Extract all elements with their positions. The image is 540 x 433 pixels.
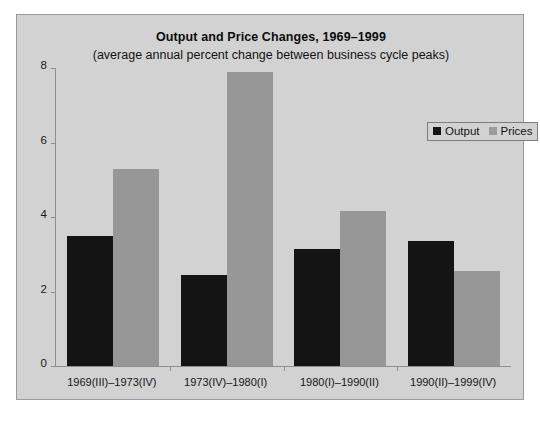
plot-area: 02468 — [55, 68, 511, 367]
y-axis-tick: 4 — [26, 217, 56, 218]
bar-group — [294, 68, 386, 366]
x-axis-category-label: 1973(IV)–1980(I) — [169, 375, 283, 389]
legend-swatch-prices-icon — [489, 127, 497, 135]
bar-output-4 — [408, 241, 454, 366]
bar-output-1 — [67, 236, 113, 366]
legend-item-output: Output — [433, 125, 480, 137]
bar-prices-1 — [113, 169, 159, 366]
bar-group — [181, 68, 273, 366]
legend-label-prices: Prices — [501, 125, 533, 137]
title-block: Output and Price Changes, 1969–1999 (ave… — [17, 29, 525, 64]
bar-output-2 — [181, 275, 227, 366]
bar-output-3 — [294, 249, 340, 366]
chart-subtitle: (average annual percent change between b… — [17, 47, 525, 64]
chart-title: Output and Price Changes, 1969–1999 — [17, 29, 525, 45]
y-axis-tick: 0 — [26, 366, 56, 367]
y-axis-tick: 8 — [26, 68, 56, 69]
chart-figure: Output and Price Changes, 1969–1999 (ave… — [0, 0, 540, 433]
x-axis-category-label: 1980(I)–1990(II) — [283, 375, 397, 389]
bar-prices-3 — [340, 211, 386, 366]
legend-item-prices: Prices — [489, 125, 533, 137]
bar-prices-2 — [227, 72, 273, 366]
x-axis-category-label: 1990(II)–1999(IV) — [396, 375, 510, 389]
y-axis-tick: 2 — [26, 292, 56, 293]
bar-group — [408, 68, 500, 366]
y-axis-tick-label: 4 — [41, 209, 47, 220]
bar-group — [67, 68, 159, 366]
x-axis-tick-mark — [170, 366, 171, 371]
y-axis-tick-mark — [51, 366, 56, 367]
chart-legend: Output Prices — [427, 122, 538, 141]
legend-swatch-output-icon — [433, 127, 441, 135]
x-axis-category-labels: 1969(III)–1973(IV)1973(IV)–1980(I)1980(I… — [55, 375, 510, 393]
y-axis-tick: 6 — [26, 143, 56, 144]
y-axis-tick-label: 8 — [41, 60, 47, 71]
y-axis-tick-label: 0 — [41, 358, 47, 369]
x-axis-category-label: 1969(III)–1973(IV) — [55, 375, 169, 389]
chart-panel: Output and Price Changes, 1969–1999 (ave… — [16, 14, 524, 400]
y-axis-tick-label: 2 — [41, 284, 47, 295]
bars-layer — [56, 68, 511, 366]
y-axis-tick-label: 6 — [41, 135, 47, 146]
legend-label-output: Output — [445, 125, 480, 137]
x-axis-tick-mark — [284, 366, 285, 371]
bar-prices-4 — [454, 271, 500, 366]
x-axis-tick-mark — [397, 366, 398, 371]
